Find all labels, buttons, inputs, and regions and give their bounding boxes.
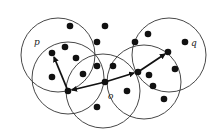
data-point [49, 74, 56, 81]
data-point [165, 49, 172, 56]
label-p: p [34, 37, 40, 47]
data-point [62, 44, 69, 51]
data-point [110, 63, 117, 70]
arrow-icon [138, 54, 165, 72]
data-point [94, 104, 101, 111]
data-point [182, 39, 189, 46]
data-point [150, 83, 157, 90]
data-point [161, 96, 168, 103]
data-points [49, 23, 189, 111]
data-point [132, 39, 139, 46]
data-point [135, 69, 142, 76]
data-point [65, 88, 72, 95]
data-point [145, 31, 152, 38]
data-point [94, 63, 101, 70]
label-o: o [108, 91, 114, 101]
data-point [102, 79, 109, 86]
data-point [67, 23, 74, 30]
data-point [49, 50, 56, 57]
arrow-icon [72, 82, 105, 90]
neighborhood-circles [21, 18, 206, 128]
data-point [172, 66, 179, 73]
data-point [146, 72, 153, 79]
density-diagram: p o q [0, 0, 218, 137]
data-point [73, 55, 80, 62]
data-point [102, 23, 109, 30]
diagram-canvas: p o q [0, 0, 218, 137]
data-point [80, 71, 87, 78]
arrow-icon [54, 57, 68, 91]
data-point [124, 88, 131, 95]
data-point [94, 39, 101, 46]
arrow-icon [105, 73, 134, 82]
label-q: q [191, 38, 197, 48]
